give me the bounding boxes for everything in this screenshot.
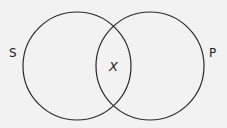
label-p: P — [209, 46, 216, 60]
label-s: S — [9, 46, 17, 60]
intersection-label: X — [109, 59, 118, 74]
